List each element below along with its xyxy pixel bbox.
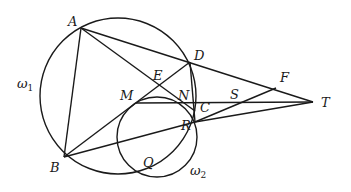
label-E: E xyxy=(152,68,163,83)
label-omega1: ω1 xyxy=(17,76,33,93)
label-A: A xyxy=(67,14,77,29)
label-R: R xyxy=(180,118,191,133)
segment-AT xyxy=(81,28,313,102)
segment-RT xyxy=(195,102,313,122)
label-Q: Q xyxy=(143,155,154,170)
label-omega2: ω2 xyxy=(190,163,206,180)
segment-BR xyxy=(64,122,195,157)
label-D: D xyxy=(193,48,205,63)
label-F: F xyxy=(279,70,290,85)
label-M: M xyxy=(119,88,134,103)
label-C: C xyxy=(200,100,210,115)
segment-BD xyxy=(64,62,190,157)
label-S: S xyxy=(230,87,239,102)
label-N: N xyxy=(177,88,190,103)
label-T: T xyxy=(321,95,331,110)
geometry-diagram: A B D E M N C R S F T Q ω1 ω2 xyxy=(0,0,351,192)
segment-MT xyxy=(136,102,313,103)
segment-AB xyxy=(64,28,81,157)
circle-omega1 xyxy=(40,18,196,174)
label-B: B xyxy=(49,160,60,175)
